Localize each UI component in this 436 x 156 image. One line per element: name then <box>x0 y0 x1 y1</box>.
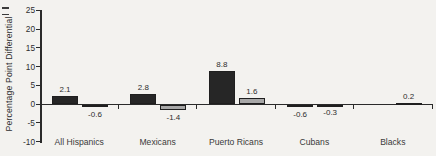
category-label: All Hispanics <box>40 137 118 148</box>
y-axis-tick-label: -10 <box>0 137 35 147</box>
bar-value-label: 2.8 <box>126 83 160 93</box>
category-label: Puerto Ricans <box>197 137 275 148</box>
y-axis-line <box>40 10 42 143</box>
bar-series-gray <box>82 105 108 107</box>
bar-series-dark <box>287 105 313 107</box>
bar-chart-figure: Percentage Point Differential 2520151050… <box>0 0 436 156</box>
bar-series-dark <box>209 71 235 104</box>
category-label: Blacks <box>354 137 432 148</box>
x-axis-tick <box>196 105 197 110</box>
bar-value-label: -0.6 <box>283 110 317 120</box>
y-axis-tick <box>36 10 40 11</box>
bar-series-dark <box>52 96 78 104</box>
bar-series-gray <box>239 98 265 104</box>
bar-series-gray <box>396 103 422 105</box>
y-axis-tick-label: 15 <box>0 43 35 53</box>
x-axis-tick <box>275 105 276 110</box>
bar-value-label: 0.2 <box>392 92 426 102</box>
y-axis-tick <box>36 122 40 123</box>
category-label: Cubans <box>275 137 353 148</box>
x-axis-tick <box>353 105 354 110</box>
y-axis-tick-label: 5 <box>0 80 35 90</box>
y-axis-tick-label: 25 <box>0 5 35 15</box>
x-axis-tick <box>118 105 119 110</box>
y-axis-tick-label: 0 <box>0 99 35 109</box>
bar-value-label: 1.6 <box>235 87 269 97</box>
category-label: Mexicans <box>118 137 196 148</box>
y-axis-tick <box>36 66 40 67</box>
bar-value-label: -0.6 <box>78 110 112 120</box>
y-axis-tick <box>36 85 40 86</box>
y-axis-tick-label: -5 <box>0 118 35 128</box>
x-axis-tick <box>40 105 41 110</box>
bar-series-gray <box>160 105 186 110</box>
bar-value-label: -1.4 <box>156 113 190 123</box>
bar-series-dark <box>130 94 156 105</box>
bar-value-label: 8.8 <box>205 60 239 70</box>
bar-value-label: 2.1 <box>48 85 82 95</box>
y-axis-tick <box>36 29 40 30</box>
y-axis-tick-label: 10 <box>0 62 35 72</box>
bar-series-gray <box>317 105 343 107</box>
bar-value-label: -0.3 <box>313 108 347 118</box>
x-axis-tick <box>432 105 433 110</box>
y-axis-tick-label: 20 <box>0 24 35 34</box>
y-axis-tick <box>36 47 40 48</box>
